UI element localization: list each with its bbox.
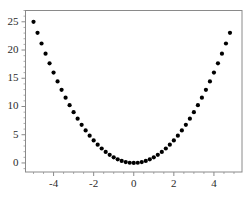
data-point: [108, 153, 112, 157]
y-tick-label: 5: [0, 129, 19, 140]
data-point: [200, 96, 204, 100]
x-tick-label: 4: [199, 178, 229, 189]
data-point: [204, 88, 208, 92]
data-point: [176, 134, 180, 138]
data-point: [116, 157, 120, 161]
data-point: [208, 79, 212, 83]
y-tick-label: 15: [0, 72, 19, 83]
data-point: [196, 103, 200, 107]
data-point: [156, 153, 160, 157]
data-point: [164, 146, 168, 150]
data-point: [31, 20, 35, 24]
data-point: [128, 161, 132, 165]
data-point: [160, 150, 164, 154]
data-point: [96, 143, 100, 147]
data-point: [184, 123, 188, 127]
data-point: [228, 31, 232, 35]
data-point: [220, 52, 224, 56]
data-point: [35, 31, 39, 35]
data-point: [92, 138, 96, 142]
y-tick-label: 25: [0, 16, 19, 27]
plot-border: [26, 11, 243, 173]
data-point: [100, 146, 104, 150]
data-point: [180, 128, 184, 132]
data-point: [212, 71, 216, 75]
x-axis-ticks: [34, 172, 234, 176]
data-point: [136, 161, 140, 165]
data-point: [120, 159, 124, 163]
data-point: [59, 88, 63, 92]
data-point: [63, 96, 67, 100]
data-point: [144, 159, 148, 163]
data-point: [172, 138, 176, 142]
data-point: [84, 128, 88, 132]
data-point: [148, 157, 152, 161]
x-tick-label: -2: [79, 178, 109, 189]
data-point: [216, 61, 220, 65]
data-point: [47, 61, 51, 65]
data-point: [168, 143, 172, 147]
x-tick-label: -4: [39, 178, 69, 189]
data-point: [192, 110, 196, 114]
y-tick-label: 10: [0, 100, 19, 111]
y-tick-label: 20: [0, 44, 19, 55]
scatter-plot-canvas: [0, 0, 251, 201]
data-point: [55, 79, 59, 83]
data-point-markers: [31, 20, 232, 165]
data-point: [152, 155, 156, 159]
y-axis-ticks: [22, 11, 26, 169]
data-point: [43, 52, 47, 56]
x-tick-label: 2: [159, 178, 189, 189]
plot-frame: [26, 11, 243, 173]
data-point: [224, 41, 228, 45]
data-point: [88, 134, 92, 138]
data-point: [132, 161, 136, 165]
data-point: [188, 117, 192, 121]
data-point: [140, 160, 144, 164]
x-tick-label: 0: [119, 178, 149, 189]
y-tick-label: 0: [0, 157, 19, 168]
data-point: [51, 71, 55, 75]
data-point: [39, 41, 43, 45]
data-point: [68, 103, 72, 107]
data-point: [104, 150, 108, 154]
data-point: [112, 155, 116, 159]
chart-figure: 0510152025 -4-2024: [0, 0, 251, 201]
data-point: [76, 117, 80, 121]
data-point: [124, 160, 128, 164]
data-point: [72, 110, 76, 114]
data-point: [80, 123, 84, 127]
